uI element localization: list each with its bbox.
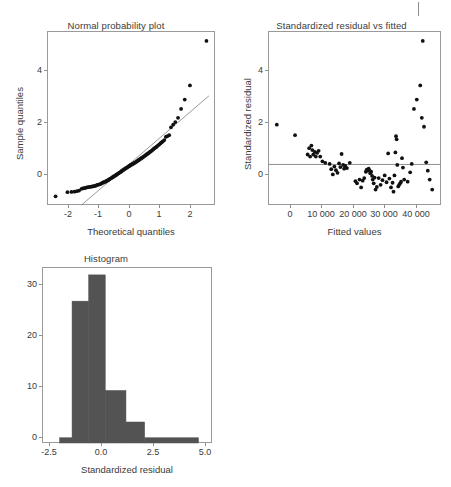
hist-xtick-label: -2.5 — [41, 447, 57, 457]
resid-ytick-mark-1 — [265, 122, 268, 123]
panel-standardized-residual-vs-fitted: Standardized residual vs fitted 0 10 000… — [232, 0, 451, 245]
qq-ytick-label: 2 — [26, 117, 42, 127]
hist-ytick-label: 10 — [14, 381, 37, 391]
resid-xtick-label: 40 000 — [402, 209, 430, 219]
hist-ytick-mark-1 — [39, 386, 42, 387]
qq-xtick-label: 0 — [126, 209, 131, 219]
hist-xtick-mark-1 — [101, 443, 102, 446]
resid-xtick-mark-2 — [353, 205, 354, 208]
qq-xtick-mark-4 — [190, 205, 191, 208]
qq-plot-title: Normal probability plot — [0, 20, 232, 31]
page-edge-artifact — [418, 2, 419, 16]
hist-xtick-label: 0.0 — [95, 447, 108, 457]
resid-xtick-label: 20 000 — [339, 209, 367, 219]
resid-plot-title: Standardized residual vs fitted — [232, 20, 451, 31]
qq-ytick-mark-2 — [44, 70, 47, 71]
resid-xtick-mark-1 — [321, 205, 322, 208]
histogram-xaxis-label: Standardized residual — [42, 464, 212, 475]
histogram-title: Histogram — [0, 253, 212, 264]
resid-xtick-mark-0 — [290, 205, 291, 208]
qq-plot-canvas — [47, 31, 215, 205]
qq-ytick-label: 0 — [26, 169, 42, 179]
resid-ytick-label: 0 — [247, 169, 263, 179]
resid-xtick-mark-4 — [416, 205, 417, 208]
qq-xtick-label: -1 — [94, 209, 102, 219]
hist-ytick-label: 30 — [14, 279, 37, 289]
qq-ytick-mark-0 — [44, 174, 47, 175]
qq-xtick-label: 2 — [187, 209, 192, 219]
hist-ytick-label: 0 — [14, 432, 37, 442]
resid-xtick-mark-3 — [384, 205, 385, 208]
resid-ytick-mark-0 — [265, 174, 268, 175]
histogram-canvas — [42, 267, 212, 443]
resid-plot-canvas — [268, 31, 441, 205]
hist-xtick-mark-2 — [153, 443, 154, 446]
qq-xtick-mark-3 — [159, 205, 160, 208]
hist-ytick-label: 20 — [14, 330, 37, 340]
hist-xtick-label: 2.5 — [147, 447, 160, 457]
qq-xtick-label: 1 — [156, 209, 161, 219]
hist-xtick-label: 5.0 — [199, 447, 212, 457]
qq-ytick-mark-1 — [44, 122, 47, 123]
panel-normal-probability-plot: Normal probability plot -2 -1 0 1 2 0 2 … — [0, 0, 232, 245]
resid-xaxis-label: Fitted values — [268, 226, 441, 237]
resid-xtick-label: 30 000 — [370, 209, 398, 219]
qq-ytick-label: 4 — [26, 65, 42, 75]
qq-xtick-mark-2 — [129, 205, 130, 208]
panel-histogram: Histogram -2.5 0.0 2.5 5.0 0 10 20 30 St… — [0, 245, 240, 487]
hist-xtick-mark-0 — [49, 443, 50, 446]
qq-xtick-mark-1 — [98, 205, 99, 208]
resid-ytick-label: 4 — [247, 65, 263, 75]
resid-yaxis-label: Standardized residual — [242, 78, 253, 170]
resid-ytick-mark-2 — [265, 70, 268, 71]
resid-xtick-label: 10 000 — [307, 209, 335, 219]
qq-xtick-mark-0 — [68, 205, 69, 208]
qq-xtick-label: -2 — [64, 209, 72, 219]
hist-ytick-mark-0 — [39, 437, 42, 438]
qq-xaxis-label: Theoretical quantiles — [47, 226, 215, 237]
hist-ytick-mark-3 — [39, 284, 42, 285]
resid-xtick-label: 0 — [287, 209, 292, 219]
qq-yaxis-label: Sample quantiles — [14, 87, 25, 160]
hist-xtick-mark-3 — [205, 443, 206, 446]
hist-ytick-mark-2 — [39, 335, 42, 336]
